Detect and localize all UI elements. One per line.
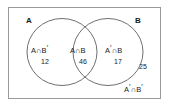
region-b-only-label: A′∩B xyxy=(105,47,122,55)
region-a-only-prime: ′ xyxy=(47,43,49,52)
region-b-only-second: B xyxy=(117,46,122,55)
region-neither-count: 25 xyxy=(139,63,147,70)
set-a-letter: A xyxy=(26,17,32,25)
region-neither-second-prime: ′ xyxy=(141,82,143,91)
region-b-only-count: 17 xyxy=(114,58,122,65)
region-both-label: A∩B xyxy=(70,47,86,55)
region-a-only-label: A∩B′ xyxy=(31,47,48,55)
set-b-letter: B xyxy=(135,17,141,25)
region-a-only-count: 12 xyxy=(41,58,49,65)
region-neither-label: A′∩B′ xyxy=(124,86,143,94)
venn-diagram: A B A∩B′ 12 A∩B 46 A′∩B 17 25 A′∩B′ xyxy=(0,0,171,106)
region-both-count: 46 xyxy=(79,58,87,65)
region-both-second: B xyxy=(81,46,86,55)
